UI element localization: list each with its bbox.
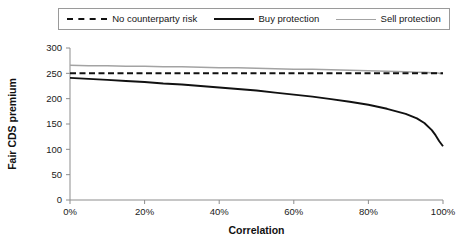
chart-figure: No counterparty risk Buy protection Sell… bbox=[0, 0, 467, 249]
x-tick-label: 40% bbox=[210, 206, 230, 217]
legend-entry-sell-protection: Sell protection bbox=[336, 14, 441, 24]
x-tick-label: 20% bbox=[135, 206, 155, 217]
y-tick-label: 250 bbox=[46, 68, 62, 79]
y-tick-label: 150 bbox=[46, 118, 62, 129]
legend-swatch-solid-gray-icon bbox=[336, 19, 376, 20]
y-tick-label: 200 bbox=[46, 93, 62, 104]
x-tick-label: 80% bbox=[359, 206, 379, 217]
x-tick-label: 100% bbox=[431, 206, 456, 217]
series-line-buy-protection bbox=[70, 78, 443, 146]
y-tick-label: 300 bbox=[46, 42, 62, 53]
plot-area: 050100150200250300 0%20%40%60%80%100% Co… bbox=[0, 36, 467, 249]
legend-entry-buy-protection: Buy protection bbox=[214, 14, 320, 24]
line-chart: 050100150200250300 0%20%40%60%80%100% Co… bbox=[0, 36, 467, 249]
y-tick-label: 0 bbox=[57, 194, 62, 205]
x-tick-label: 60% bbox=[284, 206, 304, 217]
series-group bbox=[70, 65, 443, 146]
legend-swatch-solid-dark-icon bbox=[214, 18, 254, 20]
y-tick-label: 50 bbox=[51, 169, 62, 180]
legend-swatch-dashed-icon bbox=[67, 18, 107, 20]
legend-entry-no-counterparty-risk: No counterparty risk bbox=[67, 14, 197, 24]
legend-label-no-counterparty-risk: No counterparty risk bbox=[112, 14, 197, 24]
x-axis-title: Correlation bbox=[228, 224, 284, 236]
legend-label-sell-protection: Sell protection bbox=[381, 14, 441, 24]
y-axis-ticks: 050100150200250300 bbox=[46, 42, 70, 205]
chart-legend: No counterparty risk Buy protection Sell… bbox=[58, 8, 450, 30]
series-line-sell-protection bbox=[70, 65, 443, 73]
x-tick-label: 0% bbox=[63, 206, 77, 217]
y-tick-label: 100 bbox=[46, 144, 62, 155]
x-axis-ticks: 0%20%40%60%80%100% bbox=[63, 200, 456, 217]
y-axis-title: Fair CDS premium bbox=[6, 78, 18, 170]
legend-label-buy-protection: Buy protection bbox=[259, 14, 320, 24]
